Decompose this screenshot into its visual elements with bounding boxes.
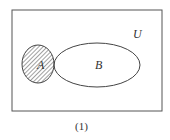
- set-a-label: A: [36, 58, 45, 72]
- venn-diagram: U A B (1): [0, 0, 170, 140]
- set-b-label: B: [95, 58, 103, 72]
- figure-caption: (1): [75, 120, 88, 133]
- shaded-region-a-minus-b: [0, 0, 170, 140]
- universe-label: U: [133, 27, 143, 41]
